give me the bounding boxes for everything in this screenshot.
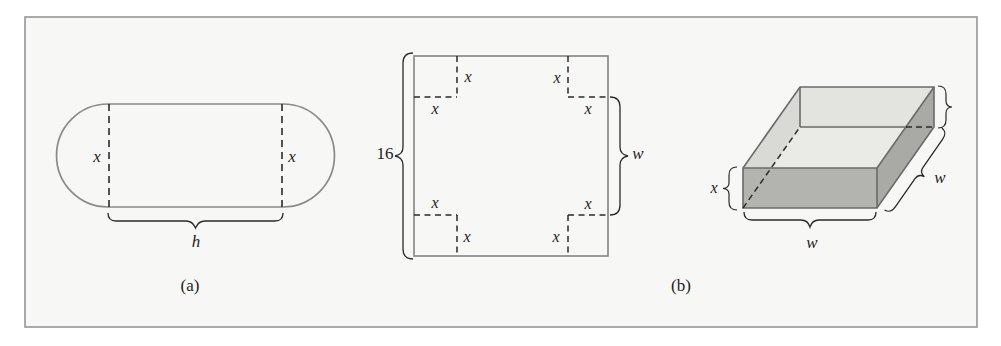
cut-label-tl-v: x — [463, 68, 471, 85]
box-front-width-w-label: w — [806, 233, 818, 252]
panel-b-caption: (b) — [671, 276, 691, 295]
cut-label-tr-h: x — [583, 100, 591, 117]
sheet-w-label: w — [632, 144, 644, 163]
stadium-left-x-label: x — [92, 147, 101, 166]
cut-label-tr-v: x — [552, 69, 560, 86]
figure-canvas: x x h (a) x x x x x x x x 16 — [0, 0, 1001, 346]
box-front-face — [743, 168, 877, 208]
panel-a-caption: (a) — [181, 276, 200, 295]
textbook-figure: x x h (a) x x x x x x x x 16 — [0, 0, 1001, 346]
cut-label-bl-h: x — [430, 194, 438, 211]
cut-label-br-h: x — [583, 195, 591, 212]
box-height-x-label: x — [709, 179, 717, 196]
stadium-h-label: h — [192, 232, 201, 251]
sheet-side-length-label: 16 — [377, 144, 394, 163]
box-depth-w-label: w — [934, 168, 946, 187]
stadium-right-x-label: x — [287, 147, 296, 166]
cut-label-bl-v: x — [462, 228, 470, 245]
cut-label-tl-h: x — [430, 100, 438, 117]
cut-label-br-v: x — [551, 228, 559, 245]
